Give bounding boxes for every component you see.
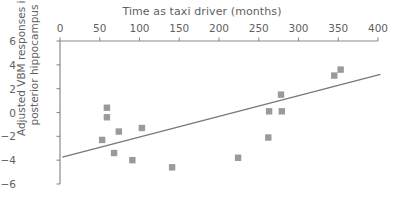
data-point-marker <box>169 164 175 170</box>
data-points <box>99 66 344 170</box>
data-point-marker <box>111 150 117 156</box>
data-point-marker <box>139 125 145 131</box>
data-point-marker <box>278 91 284 97</box>
data-point-marker <box>279 108 285 114</box>
scatter-plot-figure: Time as taxi driver (months) Adjusted VB… <box>0 0 404 202</box>
data-point-marker <box>331 72 337 78</box>
data-point-marker <box>104 105 110 111</box>
data-point-marker <box>266 108 272 114</box>
data-point-marker <box>116 128 122 134</box>
data-point-marker <box>129 157 135 163</box>
data-point-marker <box>235 155 241 161</box>
data-point-marker <box>337 66 343 72</box>
data-point-marker <box>104 114 110 120</box>
data-point-marker <box>99 137 105 143</box>
plot-area <box>0 0 404 202</box>
data-point-marker <box>265 134 271 140</box>
